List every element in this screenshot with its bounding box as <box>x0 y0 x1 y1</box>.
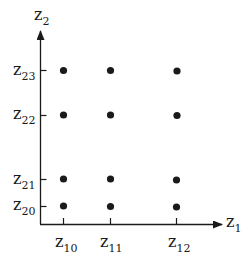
y-tick-label-z23: z23 <box>13 60 35 83</box>
point-z11-z22 <box>107 111 114 118</box>
point-z10-z22 <box>60 111 67 118</box>
x-ticks <box>64 218 177 225</box>
grid-diagram: z2 z1 z23 z22 z21 z20 z10 z11 z12 <box>0 0 252 269</box>
x-tick-label-z12: z12 <box>168 232 190 255</box>
x-tick-label-z11: z11 <box>100 232 122 255</box>
point-z11-z20 <box>107 203 114 210</box>
point-z12-z22 <box>173 112 180 119</box>
point-z12-z20 <box>173 203 180 210</box>
x-tick-label-z10: z10 <box>55 232 77 255</box>
point-z10-z20 <box>60 202 67 209</box>
point-z12-z21 <box>173 176 180 183</box>
y-tick-label-z20: z20 <box>13 195 35 218</box>
x-axis-label: z1 <box>226 212 241 235</box>
grid-points <box>60 67 181 211</box>
y-ticks <box>41 71 47 207</box>
y-tick-label-z22: z22 <box>13 104 35 127</box>
point-z10-z21 <box>60 175 67 182</box>
point-z10-z23 <box>60 67 67 74</box>
point-z11-z21 <box>107 175 114 182</box>
y-tick-label-z21: z21 <box>13 169 35 192</box>
point-z12-z23 <box>173 67 180 74</box>
y-axis-label: z2 <box>34 5 49 28</box>
point-z11-z23 <box>107 67 114 74</box>
